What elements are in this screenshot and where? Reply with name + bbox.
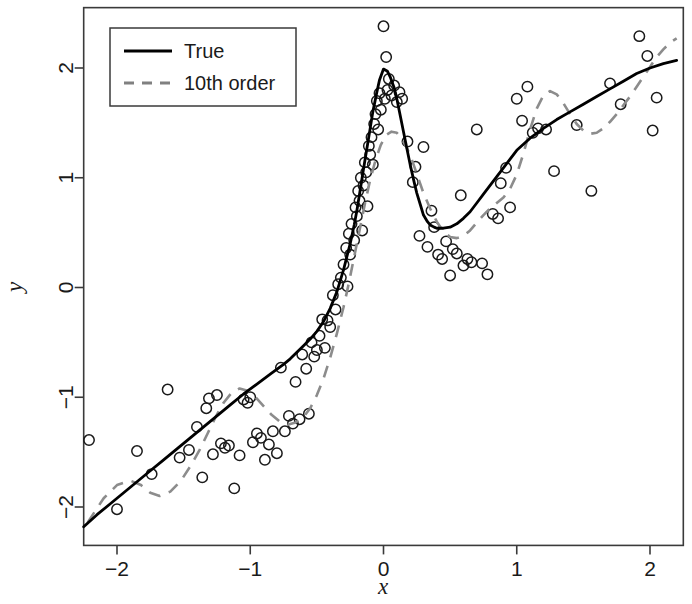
scatter-plot-figure: −2−1012 −2−1012 True10th order x y (0, 0, 692, 604)
x-tick-label: 1 (511, 557, 523, 580)
y-axis-title: y (2, 281, 27, 294)
y-tick-label: 0 (54, 282, 77, 294)
y-tick-label: −1 (54, 385, 77, 409)
x-tick-label: −2 (105, 557, 129, 580)
legend-label: True (184, 40, 224, 62)
y-tick-label: 1 (54, 172, 77, 184)
x-axis-title: x (377, 574, 389, 599)
x-tick-label: −1 (238, 557, 262, 580)
chart-container: −2−1012 −2−1012 True10th order x y (0, 0, 692, 604)
y-tick-label: 2 (54, 62, 77, 74)
plot-background (0, 0, 692, 604)
x-tick-label: 2 (644, 557, 656, 580)
legend: True10th order (110, 28, 296, 106)
y-tick-label: −2 (54, 495, 77, 519)
legend-label: 10th order (184, 72, 276, 94)
